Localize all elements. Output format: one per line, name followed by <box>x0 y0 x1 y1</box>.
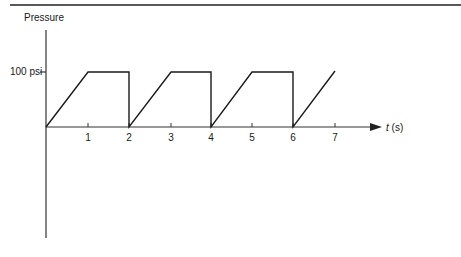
y-axis-label: Pressure <box>24 12 64 23</box>
x-tick-label: 4 <box>208 132 214 143</box>
x-axis-unit: (s) <box>389 122 403 133</box>
x-tick-label: 6 <box>290 132 296 143</box>
x-tick-label: 3 <box>168 132 174 143</box>
y-tick-label-100: 100 psi <box>10 66 42 77</box>
x-tick-label: 1 <box>85 132 91 143</box>
x-tick-label: 2 <box>126 132 132 143</box>
pressure-diagram: Pressure 100 psi 1 2 3 4 5 6 7 t (s) <box>0 0 461 257</box>
x-tick-label: 5 <box>249 132 255 143</box>
x-axis-label: t (s) <box>386 122 403 133</box>
x-axis-arrow-icon <box>370 123 382 131</box>
x-tick-labels: 1 2 3 4 5 6 7 <box>85 132 338 143</box>
x-tick-label: 7 <box>332 132 338 143</box>
pressure-waveform <box>46 71 335 127</box>
